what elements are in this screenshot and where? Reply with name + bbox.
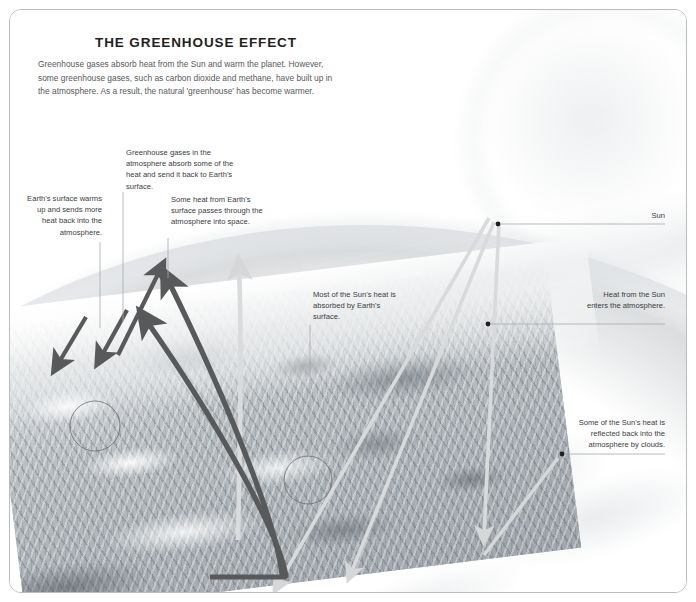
intro-paragraph: Greenhouse gases absorb heat from the Su… [38, 58, 338, 99]
callout-greenhouse-gases-absorb: Greenhouse gases in the atmosphere absor… [126, 147, 234, 192]
leader-dot-sun [496, 222, 501, 227]
sun-ray-incoming-3 [484, 224, 499, 535]
callout-reflected-by-clouds: Some of the Sun's heat is reflected back… [559, 417, 665, 451]
sun-ray-reflected [484, 458, 558, 555]
callout-earth-surface-warms: Earth's surface warms up and sends more … [24, 193, 102, 238]
surface-heat-rising-arrow-2 [146, 320, 286, 576]
infographic-card: THE GREENHOUSE EFFECT Greenhouse gases a… [9, 9, 687, 593]
callout-sun: Sun [585, 210, 665, 221]
surface-marker-circle-left [70, 401, 120, 451]
callout-heat-enters-atmosphere: Heat from the Sun enters the atmosphere. [585, 289, 665, 311]
page-title: THE GREENHOUSE EFFECT [95, 35, 297, 50]
callout-heat-passes-into-space: Some heat from Earth's surface passes th… [171, 194, 275, 228]
sun-ray-incoming-2 [351, 222, 494, 573]
surface-heat-rising-arrow-1 [168, 280, 282, 575]
leader-dot-heat-enters [486, 322, 491, 327]
sun-ray-group [278, 218, 499, 585]
callout-most-heat-absorbed: Most of the Sun's heat is absorbed by Ea… [313, 289, 397, 323]
leader-dot-reflected [560, 452, 565, 457]
reradiated-heat-arrow-down-2 [58, 317, 86, 364]
infographic-page: THE GREENHOUSE EFFECT Greenhouse gases a… [0, 0, 696, 602]
heat-escaping-arrow [238, 268, 241, 540]
surface-marker-circle-right [284, 456, 332, 504]
